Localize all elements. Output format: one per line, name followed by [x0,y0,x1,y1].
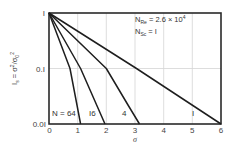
ann-re-rest: = 2.6 × 10 [147,15,183,24]
x-tick-5: 5 [190,126,195,135]
y-tick-1: I [43,9,45,18]
y-label-sup2: 2 [9,52,15,55]
label-n64: N = 64 [52,109,76,118]
label-n4: 4 [122,109,127,118]
x-tick-4: 4 [161,126,166,135]
annotation-schmidt: NSc = I [135,27,157,37]
y-tick-0-01: 0.0I [33,120,46,129]
x-tick-0: 0 [47,126,52,135]
label-n1: I [192,109,194,118]
y-label-rest: = σ [10,67,19,81]
annotation-reynolds: NRe = 2.6 × 104 [135,14,186,25]
x-tick-1: 1 [75,126,80,135]
x-tick-6: 6 [219,126,224,135]
label-n16: I6 [89,109,96,118]
x-axis-label: σ [133,135,138,144]
ann-sc-rest: = I [146,27,157,36]
y-axis-label: Is = σ2/σ02 [9,52,20,85]
y-tick-0-1: 0.I [36,65,45,74]
x-tick-2: 2 [104,126,109,135]
x-tick-3: 3 [133,126,138,135]
chart: I 0.I 0.0I 0 1 2 3 4 5 6 σ Is = σ2/σ02 N… [0,0,231,148]
ann-re-sup: 4 [183,14,186,20]
